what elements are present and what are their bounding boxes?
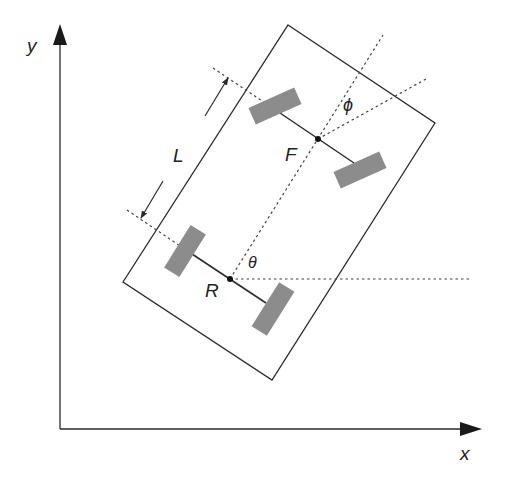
wheelbase-arrow-up	[205, 78, 228, 116]
rear-left-wheel	[164, 225, 206, 277]
vehicle-body	[123, 25, 435, 380]
front-left-wheel	[249, 88, 302, 125]
vehicle-axis-line	[230, 35, 383, 279]
rear-right-wheel	[252, 282, 295, 336]
y-axis-label: y	[25, 35, 38, 56]
heading-angle-label: θ	[248, 254, 257, 271]
front-point-marker	[315, 136, 321, 142]
y-axis-arrowhead-icon	[53, 24, 67, 45]
wheelbase-dimension	[141, 78, 228, 218]
wheelbase-label: L	[173, 145, 184, 166]
rear-point-marker	[227, 276, 233, 282]
wheelbase-arrow-down	[141, 181, 163, 218]
coordinate-axes: y x	[25, 24, 482, 464]
steering-angle-label: ϕ	[343, 95, 353, 115]
front-point-label: F	[285, 144, 298, 165]
wheels	[164, 88, 386, 336]
x-axis-arrowhead-icon	[460, 422, 482, 436]
rear-point-label: R	[205, 280, 219, 301]
vehicle-kinematics-diagram: y x F R L θ ϕ	[0, 0, 505, 483]
steering-direction-line	[318, 79, 426, 139]
x-axis-label: x	[459, 443, 471, 464]
front-right-wheel	[334, 152, 387, 189]
